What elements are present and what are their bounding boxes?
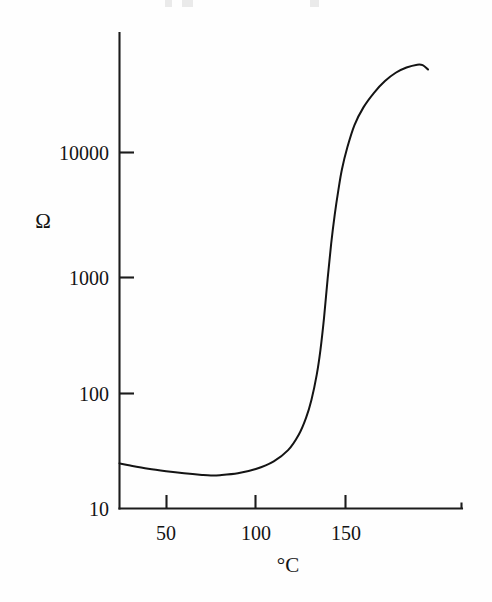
resistance-temperature-chart: 10000 1000 100 10 50 100 150 Ω °C bbox=[0, 0, 492, 602]
y-axis-title: Ω bbox=[35, 209, 51, 233]
axes-group bbox=[120, 33, 463, 509]
x-tick-label-100: 100 bbox=[241, 522, 271, 544]
y-tick-label-100: 100 bbox=[79, 383, 109, 405]
y-tick-label-10: 10 bbox=[89, 498, 109, 520]
x-axis-title: °C bbox=[277, 553, 299, 577]
x-tick-marks bbox=[167, 495, 346, 509]
figure-container: 10000 1000 100 10 50 100 150 Ω °C bbox=[0, 0, 492, 602]
x-tick-label-50: 50 bbox=[156, 522, 176, 544]
y-tick-label-10000: 10000 bbox=[59, 142, 109, 164]
y-tick-marks bbox=[120, 153, 135, 509]
resistance-curve bbox=[120, 64, 429, 475]
x-tick-label-150: 150 bbox=[331, 522, 361, 544]
y-tick-label-1000: 1000 bbox=[69, 267, 109, 289]
